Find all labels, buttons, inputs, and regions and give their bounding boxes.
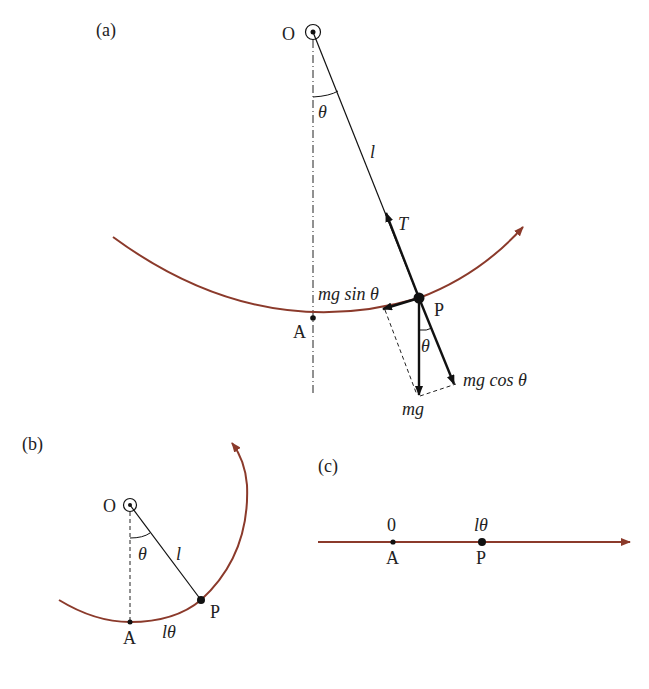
weight-label: mg (402, 399, 424, 419)
pendulum-diagram: (a) O θ l T P A mg sin θ mg (0, 0, 649, 689)
tangential-force-label: mg sin θ (318, 284, 379, 304)
radial-force-label: mg cos θ (463, 370, 527, 390)
length-label: l (370, 142, 375, 162)
theta-arc-top (313, 91, 338, 97)
pivot-o-label: O (282, 24, 295, 44)
point-a-b (128, 620, 133, 625)
point-a-label: A (293, 322, 306, 342)
theta-arc-b (130, 533, 150, 538)
theta-label-b: θ (138, 544, 147, 564)
panel-c-label: (c) (318, 456, 338, 477)
point-p-label: P (434, 300, 444, 320)
point-p-label-b: P (210, 602, 220, 622)
panel-c: (c) 0 A lθ P (318, 456, 630, 568)
construction-line-1 (385, 310, 417, 395)
origin-value-label: 0 (387, 515, 396, 535)
point-p-b (197, 596, 205, 604)
panel-a: (a) O θ l T P A mg sin θ mg (96, 20, 527, 419)
pivot-o-label-b: O (103, 496, 116, 516)
point-a-label-b: A (123, 628, 136, 648)
point-a-c (390, 539, 395, 544)
panel-b-label: (b) (22, 434, 43, 455)
point-a (310, 315, 316, 321)
construction-line-2 (420, 384, 456, 396)
tangential-force-vector (383, 298, 419, 309)
tension-label: T (398, 214, 410, 234)
theta-bottom-label: θ (421, 336, 430, 356)
theta-arc-bottom (419, 328, 432, 330)
point-a-label-c: A (386, 548, 399, 568)
panel-a-label: (a) (96, 20, 116, 41)
panel-b: (b) O θ l P A lθ (22, 434, 247, 648)
point-p-c (478, 538, 486, 546)
p-value-label: lθ (474, 515, 488, 535)
point-p-label-c: P (476, 548, 486, 568)
length-label-b: l (176, 544, 181, 564)
theta-top-label: θ (318, 102, 327, 122)
arc-length-label-b: lθ (162, 622, 176, 642)
trajectory-arc-b (59, 443, 247, 622)
